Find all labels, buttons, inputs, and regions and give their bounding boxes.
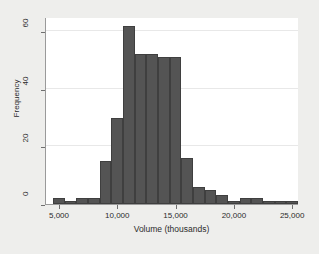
- y-axis-tick: [41, 147, 45, 148]
- y-axis-tick: [41, 205, 45, 206]
- histogram-bar: [158, 57, 170, 204]
- y-axis-tick-label: 20: [21, 134, 30, 160]
- histogram-bar: [181, 158, 193, 204]
- histogram-bar: [53, 198, 65, 204]
- histogram-bar: [216, 195, 228, 204]
- x-axis-tick: [292, 205, 293, 209]
- histogram-figure: 02040605,00010,00015,00020,00025,000 Fre…: [0, 0, 319, 254]
- x-axis-tick-label: 10,000: [95, 211, 139, 221]
- y-axis-tick: [41, 90, 45, 91]
- histogram-bar: [146, 54, 158, 204]
- x-axis-title: Volume (thousands): [45, 224, 298, 234]
- histogram-bar: [170, 57, 182, 204]
- histogram-bar: [263, 201, 275, 204]
- histogram-bar: [65, 201, 77, 204]
- histogram-bar: [100, 161, 112, 204]
- histogram-bar: [240, 198, 252, 204]
- x-axis-tick: [59, 205, 60, 209]
- x-axis-tick-label: 5,000: [37, 211, 81, 221]
- histogram-bar: [251, 198, 263, 204]
- x-axis-tick: [176, 205, 177, 209]
- histogram-bar: [286, 201, 298, 204]
- histogram-bar: [88, 198, 100, 204]
- histogram-bar: [111, 118, 123, 204]
- y-axis-tick-label: 0: [21, 192, 30, 218]
- y-axis-tick-label: 40: [21, 76, 30, 102]
- histogram-bar: [135, 54, 147, 204]
- x-axis-tick-label: 20,000: [212, 211, 256, 221]
- x-axis-tick: [234, 205, 235, 209]
- histogram-bar: [76, 198, 88, 204]
- histogram-bar: [123, 26, 135, 204]
- histogram-bars: [46, 18, 298, 204]
- x-axis-tick-label: 15,000: [154, 211, 198, 221]
- histogram-bar: [193, 187, 205, 204]
- y-axis-tick: [41, 32, 45, 33]
- x-axis-tick-label: 25,000: [270, 211, 314, 221]
- histogram-bar: [228, 201, 240, 204]
- histogram-bar: [205, 190, 217, 204]
- y-axis-title: Frequency: [12, 59, 21, 139]
- x-axis-tick: [117, 205, 118, 209]
- y-axis-tick-label: 60: [21, 19, 30, 45]
- histogram-bar: [275, 201, 287, 204]
- plot-area: [45, 18, 298, 205]
